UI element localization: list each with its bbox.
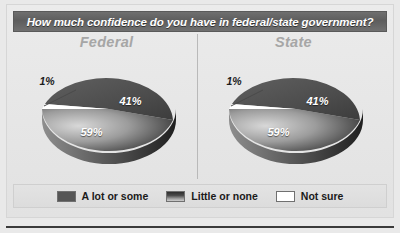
legend-item-little-or-none: Little or none: [166, 190, 258, 202]
pie-callout-not-sure-state: 1%: [227, 75, 242, 87]
legend-item-not-sure: Not sure: [276, 190, 344, 202]
legend-swatch-little-or-none: [166, 191, 185, 202]
legend-swatch-a-lot-or-some: [57, 191, 76, 202]
legend-label-not-sure: Not sure: [301, 190, 344, 202]
chart-title-bar: How much confidence do you have in feder…: [13, 11, 387, 32]
pie-chart-state: 1% 41% 59%: [221, 57, 371, 169]
pie-svg-state: [221, 57, 371, 169]
panel-divider: [197, 34, 198, 179]
pie-value-little-or-none-federal: 59%: [81, 126, 103, 138]
pie-value-little-or-none-state: 59%: [268, 126, 290, 138]
pie-callout-not-sure-federal: 1%: [40, 75, 55, 87]
pie-value-a-lot-or-some-federal: 41%: [120, 95, 142, 107]
legend-label-a-lot-or-some: A lot or some: [82, 190, 149, 202]
legend-swatch-not-sure: [276, 191, 295, 202]
panel-heading-federal: Federal: [13, 34, 200, 50]
pie-panels: Federal: [13, 33, 387, 180]
chart-figure: How much confidence do you have in feder…: [0, 0, 400, 233]
panel-heading-state: State: [200, 34, 387, 50]
pie-svg-federal: [34, 57, 184, 169]
panel-federal: Federal: [13, 33, 200, 180]
panel-state: State: [200, 33, 387, 180]
pie-value-a-lot-or-some-state: 41%: [307, 95, 329, 107]
bottom-rule: [6, 226, 394, 228]
pie-chart-federal: 1% 41% 59%: [34, 57, 184, 169]
legend-item-a-lot-or-some: A lot or some: [57, 190, 149, 202]
legend-label-little-or-none: Little or none: [191, 190, 258, 202]
chart-title: How much confidence do you have in feder…: [27, 16, 374, 28]
chart-legend: A lot or some Little or none Not sure: [13, 184, 387, 208]
